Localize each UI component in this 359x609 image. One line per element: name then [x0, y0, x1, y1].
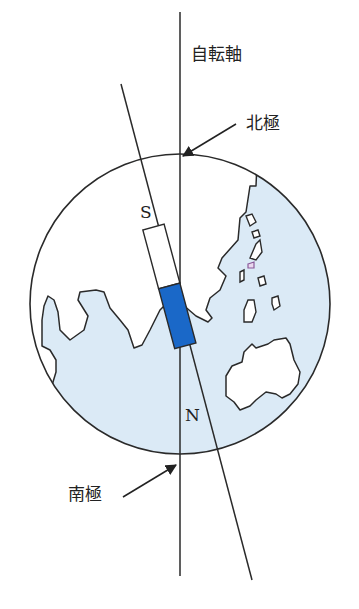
magnet-s-label: S [140, 204, 152, 221]
north-pole-arrow [183, 124, 236, 156]
rotation-axis-label: 自転軸 [191, 46, 242, 63]
earth-magnetism-diagram [0, 0, 359, 609]
magnet-n-label: N [185, 407, 200, 424]
south-pole-label: 南極 [68, 486, 102, 503]
land-island [258, 276, 266, 286]
land-island [240, 270, 244, 282]
land-island [252, 230, 260, 238]
south-pole-arrow [123, 465, 176, 497]
north-pole-label: 北極 [246, 115, 280, 132]
